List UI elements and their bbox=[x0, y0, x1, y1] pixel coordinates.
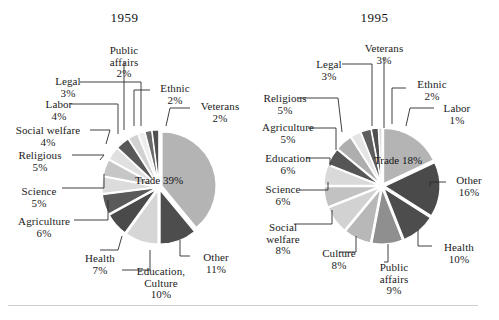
leader-line bbox=[418, 230, 432, 246]
chart-panel-1995: 1995 Trade 18% Veterans 3% Legal 3% Ethn… bbox=[250, 0, 499, 310]
leader-line bbox=[134, 90, 150, 126]
slice-label-trade-1959: Trade 39% bbox=[128, 175, 190, 187]
callout-public-affairs-1959: Public affairs 2% bbox=[93, 45, 155, 80]
chart-panel-1959: 1959 Trade 39% Public affairs 2% Legal 3… bbox=[0, 0, 249, 310]
callout-culture-1995: Culture 8% bbox=[312, 248, 366, 271]
bottom-divider bbox=[8, 305, 478, 306]
callout-veterans-1995: Veterans 3% bbox=[354, 43, 414, 66]
leader-line bbox=[100, 236, 122, 250]
callout-science-1995: Science 6% bbox=[254, 184, 312, 207]
slice-label-trade-1995: Trade 18% bbox=[370, 155, 426, 167]
callout-education-culture-1959: Education, Culture 10% bbox=[126, 266, 196, 301]
leader-line bbox=[384, 244, 388, 262]
callout-religious-1959: Religious 5% bbox=[9, 150, 71, 173]
callout-agriculture-1995: Agriculture 5% bbox=[250, 122, 326, 145]
callout-labor-1959: Labor 4% bbox=[38, 99, 80, 122]
two-pie-chart-figure: 1959 Trade 39% Public affairs 2% Legal 3… bbox=[0, 0, 499, 320]
leader-line bbox=[392, 88, 406, 124]
callout-social-welfare-1959: Social welfare 4% bbox=[6, 125, 90, 148]
pie-slices-1959 bbox=[102, 130, 216, 244]
callout-religious-1995: Religious 5% bbox=[254, 93, 316, 116]
callout-veterans-1959: Veterans 2% bbox=[192, 101, 248, 124]
callout-public-affairs-1995: Public affairs 9% bbox=[368, 262, 420, 297]
pie-slices-1995 bbox=[324, 128, 440, 244]
callout-other-1959: Other 11% bbox=[194, 252, 238, 275]
callout-legal-1959: Legal 3% bbox=[48, 76, 88, 99]
callout-other-1995: Other 16% bbox=[446, 175, 492, 198]
callout-science-1959: Science 5% bbox=[11, 186, 67, 209]
callout-legal-1995: Legal 3% bbox=[308, 59, 350, 82]
callout-agriculture-1959: Agriculture 6% bbox=[6, 216, 82, 239]
callout-education-1995: Education 6% bbox=[252, 153, 324, 176]
callout-labor-1995: Labor 1% bbox=[436, 103, 478, 126]
leader-line bbox=[72, 155, 104, 160]
leader-line bbox=[180, 240, 190, 256]
callout-health-1995: Health 10% bbox=[434, 242, 484, 265]
leader-line bbox=[90, 130, 110, 144]
callout-ethnic-1995: Ethnic 2% bbox=[408, 79, 456, 102]
leader-line bbox=[166, 108, 190, 126]
leader-line bbox=[406, 108, 434, 126]
leader-line bbox=[62, 174, 104, 188]
callout-health-1959: Health 7% bbox=[75, 253, 125, 276]
callout-social-welfare-1995: Social welfare 8% bbox=[254, 222, 312, 257]
